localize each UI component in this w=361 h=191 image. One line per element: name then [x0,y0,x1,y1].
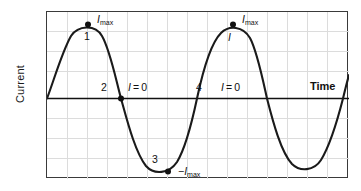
marker-peak-2 [230,22,236,28]
sine-wave-path [47,28,349,172]
annotation-point-3: 3 [152,154,158,165]
annotation-zero-right: I = 0 [221,82,240,93]
marker-trough-3 [165,169,171,175]
annotation-point-1: 1 [84,31,90,42]
plot-area [46,11,348,178]
x-axis-label: Time [310,80,335,92]
annotation-peak1-imax: Imax [97,14,113,25]
annotation-current-i: I [228,32,231,43]
marker-peak-1 [85,22,91,28]
annotation-point-4: 4 [196,82,202,93]
y-axis-label: Current [14,44,26,124]
annotation-trough-imax: −Imax [178,166,200,177]
marker-zero-2 [118,96,124,102]
ac-waveform-figure: Current [0,0,361,191]
waveform-curve [47,12,349,179]
annotation-zero-left: I = 0 [128,82,147,93]
annotation-peak2-imax: Imax [242,14,258,25]
annotation-point-2: 2 [101,82,107,93]
